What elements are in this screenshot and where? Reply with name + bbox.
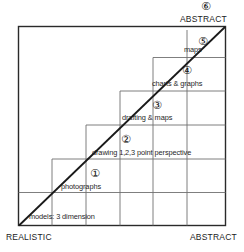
horizontal-gridlines bbox=[19, 58, 226, 193]
step-label-photographs: photographs bbox=[61, 182, 101, 191]
axis-label-abstract-bottom: ABSTRACT bbox=[190, 232, 237, 242]
axis-label-realistic: REALISTIC bbox=[6, 232, 52, 242]
level-marker-6: ⑥ bbox=[201, 1, 211, 12]
level-marker-1: ① bbox=[90, 168, 100, 179]
level-marker-5: ⑤ bbox=[198, 36, 208, 47]
continuum-diagram: ABSTRACT REALISTIC ABSTRACT models: 3 di… bbox=[0, 0, 244, 252]
continuum-diagonal bbox=[19, 27, 225, 226]
level-marker-3: ③ bbox=[152, 100, 162, 111]
step-label-drafting-maps: drafting & maps bbox=[122, 113, 172, 122]
level-marker-4: ④ bbox=[182, 65, 192, 76]
step-label-drawing-perspective: drawing 1,2,3 point perspective bbox=[92, 148, 191, 157]
step-label-models: models: 3 dimension bbox=[29, 212, 95, 221]
axis-label-abstract-top: ABSTRACT bbox=[180, 14, 227, 24]
level-marker-2: ② bbox=[121, 134, 131, 145]
step-label-charts-graphs: charts & graphs bbox=[152, 79, 202, 88]
